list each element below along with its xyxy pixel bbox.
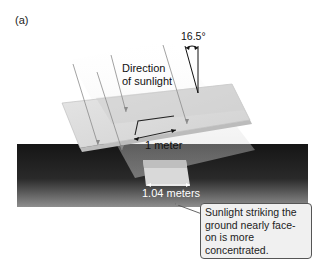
angle-label: 16.5°	[181, 30, 206, 42]
direction-label-line2: of sunlight	[122, 75, 172, 87]
panel-width-label: 1 meter	[145, 139, 183, 151]
ground-width-label: 1.04 meters	[142, 187, 201, 199]
callout-box: Sunlight striking the ground nearly face…	[200, 203, 312, 259]
direction-label-line1: Direction	[122, 62, 165, 74]
